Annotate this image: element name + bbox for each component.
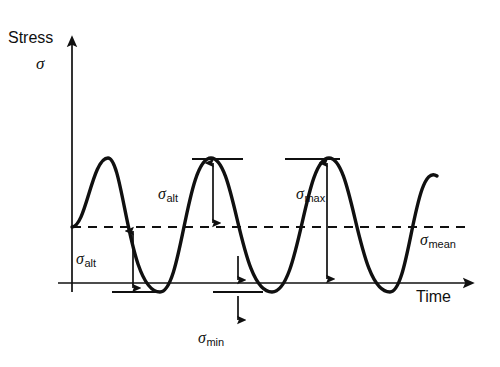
sigma-mean-subscript: mean bbox=[428, 238, 456, 250]
sigma-alt-upper-subscript: alt bbox=[166, 192, 178, 204]
stress-time-plot bbox=[0, 0, 500, 367]
sigma-min-base: σ bbox=[198, 329, 206, 346]
sigma-max-label: σmax bbox=[296, 186, 325, 202]
sigma-max-base: σ bbox=[296, 185, 304, 202]
x-axis-title: Time bbox=[416, 289, 451, 305]
sigma-alt-lower-subscript: alt bbox=[84, 257, 96, 269]
sigma-alt-lower-base: σ bbox=[76, 250, 84, 267]
fatigue-stress-cycle-figure: Stress σ Time σalt σalt σmax σmean σmin bbox=[0, 0, 500, 367]
stress-waveform bbox=[72, 158, 437, 292]
sigma-alt-lower-label: σalt bbox=[76, 251, 96, 267]
sigma-mean-label: σmean bbox=[420, 232, 455, 248]
y-axis-title: Stress bbox=[8, 30, 53, 46]
sigma-alt-upper-label: σalt bbox=[158, 186, 178, 202]
sigma-mean-base: σ bbox=[420, 231, 428, 248]
sigma-alt-upper-base: σ bbox=[158, 185, 166, 202]
sigma-min-subscript: min bbox=[206, 336, 224, 348]
y-axis-symbol: σ bbox=[36, 55, 44, 72]
sigma-max-subscript: max bbox=[304, 192, 325, 204]
sigma-min-label: σmin bbox=[198, 330, 224, 346]
